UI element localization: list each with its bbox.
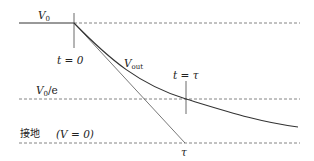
vout-label: Vout xyxy=(124,58,143,71)
rc-discharge-diagram: V0 t = 0 Vout t = τ V0/e 接地 (V = 0) τ xyxy=(0,0,314,161)
t-tau-label: t = τ xyxy=(173,70,199,81)
diagram-graphics xyxy=(0,0,314,161)
ground-label: 接地 xyxy=(20,129,40,139)
ground-equation: (V = 0) xyxy=(56,129,94,140)
t0-label: t = 0 xyxy=(57,55,83,66)
tangent-line xyxy=(74,23,185,143)
v0-label: V0 xyxy=(38,10,50,23)
v0e-label: V0/e xyxy=(36,85,58,98)
tau-label: τ xyxy=(181,147,187,158)
